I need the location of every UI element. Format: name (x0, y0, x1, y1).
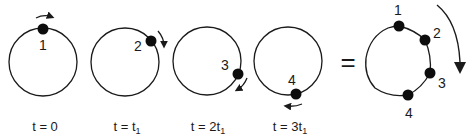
clockwise-arrow-icon (286, 104, 302, 106)
point-dot (291, 89, 302, 100)
composite-figure: 1 2 3 4 (366, 2, 466, 121)
panel-t1: 2 t = t1 (91, 28, 164, 136)
point-label-2: 2 (433, 25, 441, 41)
point-label: 4 (288, 72, 296, 88)
arrowhead-down-icon (454, 62, 466, 74)
point-label: 2 (134, 38, 142, 54)
time-label: t = 3t1 (273, 119, 307, 136)
point-dot-3 (425, 68, 436, 79)
point-dot (146, 36, 157, 47)
point-dot-1 (394, 21, 405, 32)
composite-loop (366, 26, 431, 96)
point-label: 1 (39, 37, 47, 53)
time-label: t = 0 (32, 119, 58, 134)
point-dot-4 (403, 90, 414, 101)
panel-t2: 3 t = 2t1 (173, 27, 247, 136)
clockwise-arrow-icon (36, 16, 52, 18)
panel-t0: 1 t = 0 (9, 16, 77, 134)
point-dot (233, 69, 244, 80)
clockwise-arrow-icon (158, 31, 164, 46)
point-dot-2 (420, 35, 431, 46)
point-dot (38, 24, 49, 35)
time-label: t = t1 (113, 119, 140, 136)
point-label: 3 (221, 57, 229, 73)
rotation-diagram: 1 t = 0 2 t = t1 3 t = 2t1 4 t = 3t1 = 1… (0, 0, 474, 140)
point-label-3: 3 (438, 75, 446, 91)
time-label: t = 2t1 (191, 119, 225, 136)
clockwise-arrow-icon (237, 78, 247, 90)
point-label-4: 4 (405, 105, 413, 121)
panel-t3: 4 t = 3t1 (254, 27, 322, 136)
point-label-1: 1 (394, 2, 402, 18)
orbit-circle (173, 27, 241, 95)
equals-sign: = (340, 47, 355, 77)
